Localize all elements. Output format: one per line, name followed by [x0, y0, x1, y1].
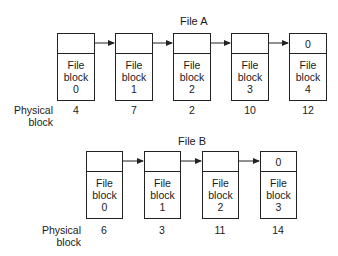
- block-body: File block 0: [87, 171, 122, 218]
- linked-list-allocation-diagram: File A File block 0 File block 1 File bl…: [0, 0, 338, 256]
- block-label: block: [296, 71, 321, 83]
- block-body: File block 4: [290, 53, 326, 100]
- physical-block-number: 14: [258, 224, 298, 236]
- file-b-title: File B: [178, 135, 206, 147]
- file-a-block-2: File block 2: [173, 33, 211, 101]
- pointer-field: [232, 34, 268, 54]
- file-a-block-1: File block 1: [115, 33, 153, 101]
- block-label: block: [64, 71, 89, 83]
- block-label: block: [150, 189, 175, 201]
- block-label: block: [208, 189, 233, 201]
- pointer-field: [87, 152, 122, 172]
- file-b-block-1: File block 1: [144, 151, 181, 219]
- pointer-field: [145, 152, 180, 172]
- file-b-block-2: File block 2: [202, 151, 239, 219]
- file-a-block-0: File block 0: [57, 33, 95, 101]
- block-index: 3: [276, 201, 282, 213]
- block-label: File: [68, 59, 85, 71]
- pointer-field: [174, 34, 210, 54]
- block-body: File block 2: [174, 53, 210, 100]
- block-body: File block 3: [261, 171, 296, 218]
- physical-block-number: 10: [230, 104, 270, 116]
- block-body: File block 1: [116, 53, 152, 100]
- block-index: 3: [247, 83, 253, 95]
- pointer-field: 0: [290, 34, 326, 54]
- block-label: block: [238, 71, 263, 83]
- file-a-block-3: File block 3: [231, 33, 269, 101]
- block-body: File block 0: [58, 53, 94, 100]
- pointer-field: [116, 34, 152, 54]
- block-index: 0: [73, 83, 79, 95]
- file-a-physical-label: Physical block: [5, 104, 53, 128]
- block-label: File: [126, 59, 143, 71]
- block-body: File block 2: [203, 171, 238, 218]
- block-index: 2: [218, 201, 224, 213]
- physical-block-number: 6: [84, 224, 124, 236]
- block-body: File block 3: [232, 53, 268, 100]
- block-label: File: [212, 177, 229, 189]
- physical-block-number: 4: [56, 104, 96, 116]
- block-label: File: [184, 59, 201, 71]
- block-label: block: [180, 71, 205, 83]
- block-index: 4: [305, 83, 311, 95]
- pointer-field: 0: [261, 152, 296, 172]
- block-label: block: [122, 71, 147, 83]
- file-b-physical-label: Physical block: [33, 224, 81, 248]
- block-label: block: [92, 189, 117, 201]
- file-b-block-3: 0 File block 3: [260, 151, 297, 219]
- block-index: 1: [131, 83, 137, 95]
- block-label: File: [270, 177, 287, 189]
- block-label: File: [154, 177, 171, 189]
- physical-block-number: 2: [172, 104, 212, 116]
- pointer-field: [58, 34, 94, 54]
- block-index: 1: [160, 201, 166, 213]
- block-index: 2: [189, 83, 195, 95]
- file-a-title: File A: [180, 15, 208, 27]
- block-body: File block 1: [145, 171, 180, 218]
- file-b-block-0: File block 0: [86, 151, 123, 219]
- block-index: 0: [102, 201, 108, 213]
- physical-block-number: 3: [142, 224, 182, 236]
- block-label: File: [300, 59, 317, 71]
- file-a-block-4: 0 File block 4: [289, 33, 327, 101]
- pointer-field: [203, 152, 238, 172]
- physical-block-number: 7: [114, 104, 154, 116]
- physical-block-number: 11: [200, 224, 240, 236]
- block-label: File: [242, 59, 259, 71]
- block-label: File: [96, 177, 113, 189]
- physical-block-number: 12: [288, 104, 328, 116]
- block-label: block: [266, 189, 291, 201]
